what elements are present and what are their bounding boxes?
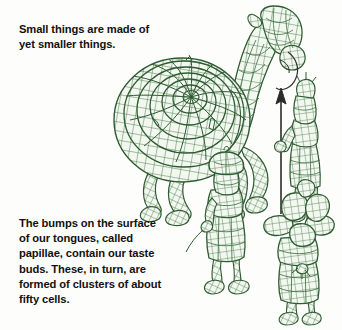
caption-bottom: The bumps on the surface of our tongues,… xyxy=(19,216,204,307)
flower-hat-figure-right-foot xyxy=(302,312,321,325)
flower-hat-top-petal xyxy=(298,180,315,197)
flower-hat-figure-left-foot xyxy=(279,312,298,325)
camel-muzzle xyxy=(280,45,305,70)
spear-figure-headdress xyxy=(297,79,315,98)
caption-top: Small things are made of yet smaller thi… xyxy=(19,22,199,52)
spear-figure-hand xyxy=(275,141,287,152)
walking-figure-right-foot xyxy=(229,280,250,294)
illustrated-book-page: Small things are made of yet smaller thi… xyxy=(0,0,342,330)
flower-hat-center xyxy=(290,224,316,247)
walking-figure-left-foot xyxy=(205,280,225,294)
